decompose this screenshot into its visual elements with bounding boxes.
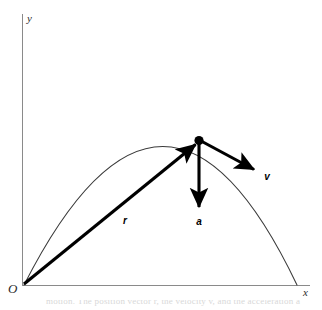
figure-caption: motion. The position vector r, the veloc… <box>46 300 306 306</box>
position-vector-arrow <box>24 145 196 285</box>
vector-labels-group: r v a <box>123 171 271 227</box>
caption-strip: motion. The position vector r, the veloc… <box>0 300 322 310</box>
trajectory-group <box>24 147 297 286</box>
particle-point <box>194 136 203 145</box>
y-axis-label: y <box>26 12 32 24</box>
vectors-group <box>24 136 254 284</box>
velocity-vector-label: v <box>264 171 271 182</box>
position-vector-label: r <box>123 215 128 226</box>
velocity-vector-arrow <box>202 142 254 170</box>
x-axis-label: x <box>302 286 308 298</box>
axes-group: y x O <box>8 12 310 298</box>
trajectory-curve <box>24 147 297 286</box>
projectile-motion-figure: y x O r v a motion. The positio <box>0 0 322 310</box>
origin-label: O <box>8 281 18 296</box>
figure-canvas: y x O r v a <box>0 0 322 310</box>
acceleration-vector-label: a <box>196 216 202 227</box>
